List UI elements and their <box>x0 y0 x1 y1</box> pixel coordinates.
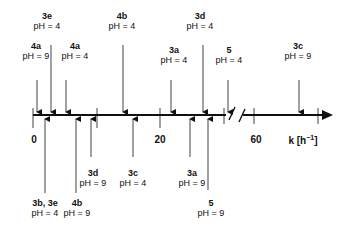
axis-arrowhead-icon <box>322 110 333 120</box>
tick-label-0: 0 <box>31 134 37 145</box>
axis-unit-label: k [h−1] <box>288 134 317 146</box>
tick-label-20: 20 <box>154 134 165 145</box>
marker-label-top: 3cpH = 9 <box>285 41 312 61</box>
axis-break-mark <box>229 107 235 120</box>
marker-label-top: 4bpH = 4 <box>109 11 136 31</box>
marker-label-bottom: 3b, 3epH = 4 <box>32 198 59 218</box>
marker-label-top: 4apH = 9 <box>23 41 50 61</box>
axis-diagram <box>0 0 348 229</box>
marker-label-top: 4apH = 4 <box>62 41 89 61</box>
marker-label-top: 3dpH = 4 <box>187 11 214 31</box>
marker-label-top: 5pH = 4 <box>216 45 243 65</box>
marker-label-bottom: 3dpH = 9 <box>80 168 107 188</box>
marker-label-bottom: 3cpH = 4 <box>120 168 147 188</box>
marker-label-top: 3epH = 4 <box>34 11 61 31</box>
marker-label-top: 3apH = 4 <box>161 45 188 65</box>
marker-label-bottom: 3apH = 9 <box>179 168 206 188</box>
marker-label-bottom: 5pH = 9 <box>198 198 225 218</box>
marker-label-bottom: 4bpH = 9 <box>64 198 91 218</box>
tick-label-60: 60 <box>250 134 261 145</box>
